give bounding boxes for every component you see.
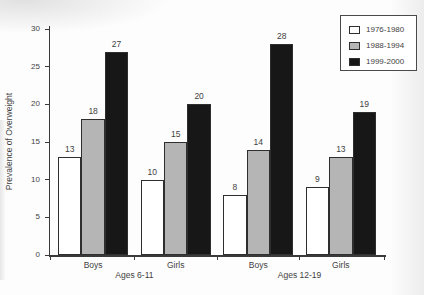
bar-value-label: 15: [161, 129, 191, 139]
bar-value-label: 8: [220, 182, 250, 192]
x-axis-tick: [134, 257, 135, 261]
x-axis-tick: [50, 257, 51, 261]
y-axis-tick-label: 15: [18, 137, 40, 147]
y-axis-tick: [45, 179, 49, 180]
y-axis-tick-label: 30: [18, 24, 40, 34]
bar-1988-1994-boys-2: [247, 150, 270, 255]
y-axis-tick: [45, 66, 49, 67]
bar-1988-1994-girls-1: [164, 142, 187, 255]
legend-label: 1976-1980: [366, 25, 404, 34]
bar-1999-2000-girls-3: [353, 112, 376, 255]
x-category-label-girls-1: Girls: [146, 260, 206, 270]
y-axis-tick: [45, 217, 49, 218]
bar-value-label: 13: [55, 144, 85, 154]
x-category-label-boys-0: Boys: [63, 260, 123, 270]
x-axis-tick: [384, 257, 385, 261]
bar-value-label: 19: [349, 99, 379, 109]
bar-value-label: 20: [184, 91, 214, 101]
x-axis-tick: [217, 257, 218, 261]
bar-value-label: 28: [267, 31, 297, 41]
y-axis-tick: [45, 104, 49, 105]
bar-1988-1994-girls-3: [329, 157, 352, 255]
bar-value-label: 14: [243, 137, 273, 147]
bar-1976-1980-girls-3: [306, 187, 329, 255]
y-axis-line: [49, 26, 51, 255]
x-category-label-boys-2: Boys: [228, 260, 288, 270]
legend-entry: 1988-1994: [349, 38, 416, 53]
y-axis-title: Prevalence of Overweight: [4, 62, 15, 222]
bar-1976-1980-boys-0: [58, 157, 81, 255]
bar-1976-1980-boys-2: [223, 195, 246, 255]
x-category-label-girls-3: Girls: [311, 260, 371, 270]
y-axis-tick-label: 20: [18, 99, 40, 109]
legend-swatch-1988-1994: [349, 42, 360, 50]
bar-1999-2000-girls-1: [187, 104, 210, 255]
bar-1988-1994-boys-0: [81, 119, 104, 255]
legend-entry: 1976-1980: [349, 22, 416, 37]
y-axis-tick-label: 25: [18, 62, 40, 72]
bar-chart-figure: Prevalence of Overweight 1976-1980 1988-…: [0, 0, 424, 295]
legend-label: 1999-2000: [366, 57, 404, 66]
y-axis-tick: [45, 255, 49, 256]
bar-1999-2000-boys-2: [270, 44, 293, 255]
legend-swatch-1999-2000: [349, 58, 360, 66]
bar-value-label: 9: [302, 174, 332, 184]
legend-swatch-1976-1980: [349, 26, 360, 34]
x-group-label: Ages 6-11: [94, 270, 174, 280]
bar-value-label: 13: [326, 144, 356, 154]
y-axis-tick-label: 0: [18, 250, 40, 260]
y-axis-tick-label: 10: [18, 175, 40, 185]
legend-entry: 1999-2000: [349, 54, 416, 69]
y-axis-tick: [45, 142, 49, 143]
bar-1999-2000-boys-0: [105, 52, 128, 255]
y-axis-tick-label: 5: [18, 212, 40, 222]
bar-value-label: 27: [102, 39, 132, 49]
bar-1976-1980-girls-1: [141, 180, 164, 255]
y-axis-tick: [45, 29, 49, 30]
bar-value-label: 18: [78, 106, 108, 116]
legend: 1976-1980 1988-1994 1999-2000: [340, 15, 417, 71]
legend-label: 1988-1994: [366, 41, 404, 50]
bar-value-label: 10: [137, 167, 167, 177]
x-group-label: Ages 12-19: [260, 270, 340, 280]
x-axis-tick: [299, 257, 300, 261]
